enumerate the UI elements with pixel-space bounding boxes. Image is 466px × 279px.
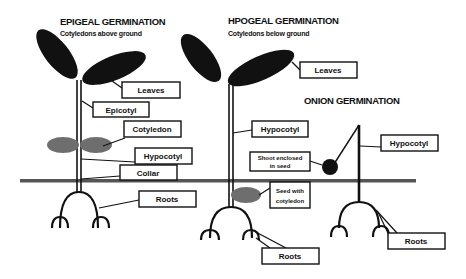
epigeal-roots-label: Roots [156, 195, 179, 204]
epigeal-title: EPIGEAL GERMINATION [60, 16, 166, 27]
hypogeal-germination-group: HPOGEAL GERMINATION Cotyledons below gro… [174, 15, 357, 264]
hypogeal-seed-label-line1: Seed with [276, 188, 304, 194]
epigeal-epicotyl-label: Epicotyl [105, 106, 136, 115]
germination-diagram: EPIGEAL GERMINATION Cotyledons above gro… [0, 0, 466, 279]
hypogeal-leaves-label: Leaves [314, 66, 342, 75]
epigeal-germination-group: EPIGEAL GERMINATION Cotyledons above gro… [29, 16, 196, 228]
hypogeal-leaf-left [174, 28, 229, 88]
hypogeal-seed-label-box [270, 182, 310, 208]
onion-shoot [334, 125, 359, 164]
onion-root-right [373, 226, 389, 237]
onion-shoot-label-line1: Shoot enclosed [258, 155, 303, 161]
onion-germination-group: ONION GERMINATION Shoot enclosed in seed… [250, 95, 445, 249]
epigeal-root-main [60, 192, 98, 228]
onion-root-main [339, 202, 379, 228]
hypogeal-subtitle: Cotyledons below ground [228, 30, 309, 38]
onion-title: ONION GERMINATION [304, 95, 400, 106]
onion-seed [322, 159, 338, 175]
epigeal-collar-label: Collar [137, 169, 160, 178]
epigeal-cotyledon-left [47, 137, 79, 153]
hypogeal-seed [231, 187, 261, 203]
hypogeal-seed-label-line2: cotyledon [276, 198, 305, 204]
hypogeal-roots-label: Roots [279, 252, 302, 261]
hypogeal-leaf-right [223, 42, 299, 93]
epigeal-subtitle: Cotyledons above ground [60, 30, 142, 38]
onion-shoot-label-line2: in seed [270, 163, 291, 169]
epigeal-hypocotyl-label: Hypocotyl [144, 152, 183, 161]
epigeal-root-right [93, 217, 109, 228]
ground-line [20, 179, 416, 183]
onion-hypocotyl-label: Hypocotyl [390, 139, 429, 148]
hypogeal-title: HPOGEAL GERMINATION [228, 15, 339, 26]
epigeal-cotyledon-label: Cotyledon [132, 125, 171, 134]
hypogeal-hypocotyl-label: Hypocotyl [261, 125, 300, 134]
onion-roots-label: Roots [405, 237, 428, 246]
epigeal-leaves-label: Leaves [137, 86, 165, 95]
